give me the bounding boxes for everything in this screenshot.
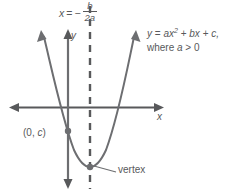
x-axis-arrow-left-icon (9, 103, 19, 112)
symmetry-variable: x (59, 7, 64, 19)
equation-term3: c, (211, 28, 219, 39)
y-axis-label: y (71, 30, 76, 42)
equation-plus-2: + (203, 28, 209, 39)
y-intercept-point-marker (65, 128, 71, 134)
symmetry-equals: = (66, 7, 72, 19)
vertex-point-marker (87, 164, 93, 170)
symmetry-numerator: b (85, 1, 94, 11)
y-intercept-close: ) (42, 127, 45, 138)
symmetry-denominator: 2a (83, 13, 98, 23)
x-axis-label: x (157, 111, 162, 123)
x-axis (9, 103, 164, 112)
equation-term2: bx (189, 28, 200, 39)
equation-line-2: where a > 0 (147, 42, 219, 54)
symmetry-minus-sign: − (74, 7, 80, 19)
parabola-curve (37, 30, 141, 167)
equation-term1-exponent: 2 (174, 27, 178, 34)
equation-equals: = (155, 28, 161, 39)
y-axis (64, 29, 73, 189)
axis-of-symmetry-equation-label: x = − b 2a (59, 2, 97, 24)
equation-line-1: y = ax2 + bx + c, (147, 28, 219, 39)
quadratic-equation-label: y = ax2 + bx + c, where a > 0 (147, 27, 219, 53)
symmetry-fraction: b 2a (83, 1, 98, 23)
y-intercept-open: (0, (23, 127, 37, 138)
vertex-label: vertex (118, 164, 145, 176)
equation-condition-relation: > 0 (183, 42, 200, 53)
equation-plus-1: + (181, 28, 187, 39)
parabola-diagram: y x x = − b 2a y = ax2 + bx + c, where a… (0, 0, 246, 191)
vertex-leader-line (94, 166, 116, 172)
y-intercept-label: (0, c) (23, 127, 46, 139)
equation-lhs: y (147, 28, 152, 39)
y-axis-arrow-down-icon (64, 179, 73, 189)
equation-condition-prefix: where (147, 42, 177, 53)
